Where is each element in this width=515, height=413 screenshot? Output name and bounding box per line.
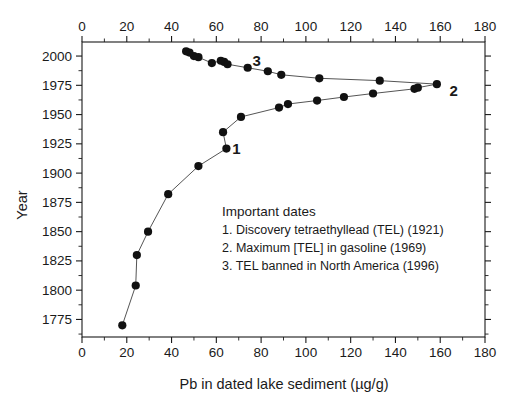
data-point (433, 80, 441, 88)
y-axis-title: Year (14, 190, 30, 219)
left-tick-label: 1975 (42, 78, 72, 93)
data-point (194, 162, 202, 170)
data-point (277, 71, 285, 79)
top-tick-label: 160 (429, 19, 452, 34)
left-tick-label: 2000 (42, 49, 72, 64)
data-point (237, 113, 245, 121)
annotation-2: 2 (449, 82, 457, 99)
top-tick-label: 20 (119, 19, 134, 34)
data-point (313, 96, 321, 104)
left-tick-label: 1925 (42, 136, 72, 151)
bottom-tick-label: 20 (119, 345, 134, 360)
top-tick-label: 80 (254, 19, 269, 34)
data-point (144, 228, 152, 236)
data-point (208, 59, 216, 67)
bottom-tick-label: 160 (429, 345, 452, 360)
data-point (133, 251, 141, 259)
top-tick-label: 140 (384, 19, 407, 34)
bottom-tick-label: 80 (254, 345, 269, 360)
bottom-tick-label: 100 (295, 345, 318, 360)
left-tick-label: 1850 (42, 224, 72, 239)
data-point (118, 321, 126, 329)
data-point (132, 281, 140, 289)
left-tick-label: 1825 (42, 253, 72, 268)
data-point (164, 190, 172, 198)
left-tick-label: 1900 (42, 166, 72, 181)
left-tick-label: 1775 (42, 312, 72, 327)
top-tick-label: 40 (164, 19, 179, 34)
data-point (182, 47, 190, 55)
data-point (217, 57, 225, 65)
top-tick-label: 120 (339, 19, 362, 34)
figure-caption (0, 397, 515, 413)
left-tick-label: 1875 (42, 195, 72, 210)
bottom-tick-label: 180 (474, 345, 497, 360)
top-tick-label: 0 (78, 19, 86, 34)
left-tick-label: 1950 (42, 107, 72, 122)
pb-sediment-line-chart: 020406080100120140160180 020406080100120… (0, 0, 515, 413)
bottom-tick-label: 60 (209, 345, 224, 360)
figure-container: 020406080100120140160180 020406080100120… (0, 0, 515, 413)
data-point (264, 67, 272, 75)
left-tick-label: 1800 (42, 283, 72, 298)
data-point (369, 89, 377, 97)
data-point (275, 103, 283, 111)
legend-entry-3: 3. TEL banned in North America (1996) (222, 259, 439, 273)
legend-entry-1: 1. Discovery tetraethyllead (TEL) (1921) (222, 223, 444, 237)
data-point (244, 64, 252, 72)
top-tick-label: 100 (295, 19, 318, 34)
data-point (414, 84, 422, 92)
data-point (222, 144, 230, 152)
bottom-tick-label: 0 (78, 345, 86, 360)
annotation-3: 3 (252, 52, 260, 69)
top-tick-label: 180 (474, 19, 497, 34)
legend-entry-2: 2. Maximum [TEL] in gasoline (1969) (222, 241, 426, 255)
top-tick-label: 60 (209, 19, 224, 34)
x-axis-title: Pb in dated lake sediment (µg/g) (179, 376, 388, 392)
data-point (219, 128, 227, 136)
data-point (376, 77, 384, 85)
data-point (340, 93, 348, 101)
data-point (284, 100, 292, 108)
data-point (315, 74, 323, 82)
bottom-tick-label: 40 (164, 345, 179, 360)
annotation-1: 1 (232, 140, 240, 157)
bottom-tick-label: 140 (384, 345, 407, 360)
bottom-tick-label: 120 (339, 345, 362, 360)
legend-title: Important dates (222, 204, 316, 219)
